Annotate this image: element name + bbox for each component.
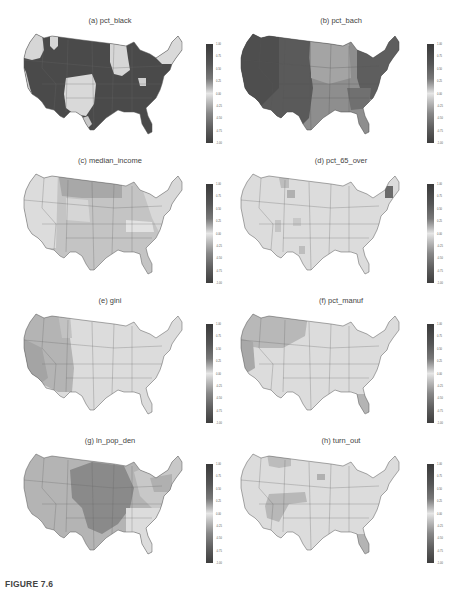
us-map-median-income (22, 168, 192, 280)
tick-label: -0.50 (216, 397, 222, 400)
tick-label: -0.25 (216, 104, 222, 107)
colorbar-ticks: 1.00 0.75 0.50 0.25 0.00 -0.25 -0.50 -0.… (437, 184, 453, 283)
panel-title: (c) median_income (0, 156, 220, 165)
panel-f: (f) pct_manuf 1.00 0.75 0.50 0.25 0.00 -… (231, 280, 463, 420)
tick-label: 0.25 (216, 220, 221, 223)
tick-label: 0.00 (437, 232, 442, 235)
colorbar (206, 44, 213, 143)
tick-label: 0.25 (216, 80, 221, 83)
tick-label: 0.75 (437, 55, 442, 58)
tick-label: 0.00 (437, 512, 442, 515)
colorbar-ticks: 1.00 0.75 0.50 0.25 0.00 -0.25 -0.50 -0.… (437, 464, 453, 563)
tick-label: 0.75 (437, 195, 442, 198)
panel-title: (b) pct_bach (231, 16, 451, 25)
tick-label: 1.00 (437, 323, 442, 326)
tick-label: 1.00 (216, 323, 221, 326)
panel-h: (h) turn_out 1.00 0.75 0.50 0.25 0.00 -0… (231, 420, 463, 560)
tick-label: -0.75 (437, 409, 443, 412)
tick-label: 0.50 (437, 67, 442, 70)
tick-label: 0.50 (437, 207, 442, 210)
colorbar-ticks: 1.00 0.75 0.50 0.25 0.00 -0.25 -0.50 -0.… (216, 184, 232, 283)
tick-label: 0.25 (437, 500, 442, 503)
tick-label: 0.75 (437, 475, 442, 478)
tick-label: -0.75 (216, 409, 222, 412)
panel-d: (d) pct_65_over 1.00 0.75 0.50 0.25 0.00… (231, 140, 463, 280)
figure-label: FIGURE 7.6 (5, 579, 53, 589)
panel-a: (a) pct_black 1.00 0.75 0.50 0.25 0.00 -… (0, 0, 232, 140)
tick-label: 1.00 (216, 183, 221, 186)
tick-label: -1.00 (216, 562, 222, 565)
panel-title: (d) pct_65_over (231, 156, 451, 165)
tick-label: -0.25 (216, 384, 222, 387)
panel-title: (g) ln_pop_den (0, 436, 220, 445)
colorbar (206, 464, 213, 563)
tick-label: -0.75 (437, 549, 443, 552)
tick-label: -0.75 (437, 129, 443, 132)
tick-label: -0.75 (437, 269, 443, 272)
colorbar-ticks: 1.00 0.75 0.50 0.25 0.00 -0.25 -0.50 -0.… (216, 44, 232, 143)
tick-label: -0.50 (437, 257, 443, 260)
tick-label: 0.25 (216, 360, 221, 363)
tick-label: 0.50 (437, 487, 442, 490)
colorbar (427, 324, 434, 423)
tick-label: 0.75 (216, 475, 221, 478)
tick-label: 0.50 (216, 347, 221, 350)
us-map-pct-black (22, 28, 192, 140)
tick-label: 1.00 (216, 463, 221, 466)
tick-label: 1.00 (216, 43, 221, 46)
colorbar (427, 44, 434, 143)
colorbar (427, 184, 434, 283)
tick-label: -0.75 (216, 269, 222, 272)
us-map-ln-pop-den (22, 448, 192, 560)
tick-label: 0.00 (216, 512, 221, 515)
tick-label: 0.50 (437, 347, 442, 350)
tick-label: 0.50 (216, 487, 221, 490)
tick-label: -1.00 (437, 562, 443, 565)
tick-label: 1.00 (437, 183, 442, 186)
us-map-gini (22, 308, 192, 420)
tick-label: 0.00 (216, 232, 221, 235)
tick-label: -0.25 (437, 524, 443, 527)
colorbar-ticks: 1.00 0.75 0.50 0.25 0.00 -0.25 -0.50 -0.… (437, 44, 453, 143)
colorbar-ticks: 1.00 0.75 0.50 0.25 0.00 -0.25 -0.50 -0.… (216, 464, 232, 563)
colorbar (206, 324, 213, 423)
tick-label: -0.50 (437, 397, 443, 400)
panel-title: (f) pct_manuf (231, 296, 451, 305)
panel-title: (h) turn_out (231, 436, 451, 445)
tick-label: 0.00 (437, 372, 442, 375)
us-map-pct-bach (239, 28, 409, 140)
panel-e: (e) gini 1.00 0.75 0.50 0.25 0.00 -0.25 … (0, 280, 232, 420)
tick-label: 0.00 (437, 92, 442, 95)
tick-label: 0.75 (216, 195, 221, 198)
tick-label: -0.25 (437, 244, 443, 247)
tick-label: -0.50 (437, 537, 443, 540)
tick-label: -0.25 (216, 524, 222, 527)
tick-label: 1.00 (437, 43, 442, 46)
tick-label: 1.00 (437, 463, 442, 466)
tick-label: -0.25 (437, 104, 443, 107)
panel-c: (c) median_income 1.00 0.75 0.50 0.25 0.… (0, 140, 232, 280)
tick-label: 0.25 (437, 220, 442, 223)
us-map-turn-out (239, 448, 409, 560)
tick-label: 0.00 (216, 372, 221, 375)
tick-label: 0.25 (437, 360, 442, 363)
tick-label: 0.25 (216, 500, 221, 503)
tick-label: 0.00 (216, 92, 221, 95)
tick-label: 0.75 (216, 55, 221, 58)
colorbar (206, 184, 213, 283)
colorbar-ticks: 1.00 0.75 0.50 0.25 0.00 -0.25 -0.50 -0.… (437, 324, 453, 423)
tick-label: -0.50 (216, 537, 222, 540)
colorbar (427, 464, 434, 563)
panel-b: (b) pct_bach 1.00 0.75 0.50 0.25 0.00 -0… (231, 0, 463, 140)
tick-label: 0.75 (437, 335, 442, 338)
tick-label: -0.75 (216, 129, 222, 132)
tick-label: -0.50 (216, 117, 222, 120)
panel-title: (e) gini (0, 296, 220, 305)
tick-label: -0.50 (437, 117, 443, 120)
tick-label: -0.50 (216, 257, 222, 260)
tick-label: -0.25 (216, 244, 222, 247)
tick-label: -0.75 (216, 549, 222, 552)
panel-title: (a) pct_black (0, 16, 220, 25)
us-map-pct-manuf (239, 308, 409, 420)
tick-label: 0.75 (216, 335, 221, 338)
